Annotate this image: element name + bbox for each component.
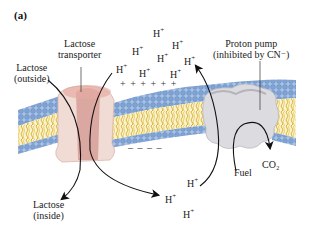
diagram-canvas: (a) Lactose transporter Lactose (outside… xyxy=(0,0,320,238)
negative-charges: – – – – xyxy=(128,142,163,153)
proton-outside: H+ xyxy=(184,55,195,67)
lactose-transporter-label: Lactose transporter xyxy=(58,38,101,60)
proton-inside: H+ xyxy=(165,193,176,205)
label-line: Lactose xyxy=(14,62,50,73)
proton-inside: H+ xyxy=(187,177,198,189)
co2-label: CO₂ xyxy=(262,159,279,170)
proton-outside: H+ xyxy=(172,39,183,51)
label-line: Lactose xyxy=(58,38,101,49)
proton-outside: H+ xyxy=(132,45,143,57)
membrane-middle xyxy=(110,84,215,148)
proton-outside: H+ xyxy=(153,27,164,39)
proton-outside: H+ xyxy=(116,63,127,75)
proton-pump-label: Proton pump (inhibited by CN⁻) xyxy=(213,38,289,60)
proton-outside: H+ xyxy=(139,67,150,79)
label-line: Proton pump xyxy=(213,38,289,49)
panel-label: (a) xyxy=(14,9,27,21)
lactose-outside-label: Lactose (outside) xyxy=(14,62,50,84)
proton-outside: H+ xyxy=(157,52,168,64)
label-line: (inside) xyxy=(33,210,64,221)
lactose-inside-label: Lactose (inside) xyxy=(33,199,64,221)
proton-pump-protein xyxy=(203,84,279,149)
label-line: Lactose xyxy=(33,199,64,210)
label-line: (outside) xyxy=(14,73,50,84)
label-line: (inhibited by CN⁻) xyxy=(213,49,289,60)
membrane-left xyxy=(18,96,60,154)
lactose-transporter-protein xyxy=(56,85,115,162)
proton-outside: H+ xyxy=(170,68,181,80)
fuel-label: Fuel xyxy=(234,167,252,178)
label-line: transporter xyxy=(58,49,101,60)
positive-charges: + + + + + + xyxy=(120,78,177,89)
proton-inside: H+ xyxy=(183,208,194,220)
